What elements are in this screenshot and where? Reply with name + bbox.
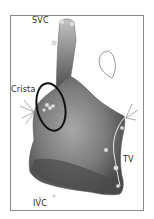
left-catheter-marker (20, 100, 34, 124)
label-crista: Crista (11, 85, 36, 94)
atrium-map (0, 0, 154, 219)
right-catheter-marker (126, 104, 138, 120)
label-tv: TV (123, 155, 134, 164)
label-ivc: IVC (33, 199, 47, 208)
label-svc: SVC (32, 16, 49, 25)
heart-orientation-icon (99, 51, 115, 78)
